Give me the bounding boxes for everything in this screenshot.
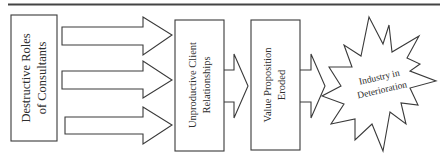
svg-text:of Consultants: of Consultants <box>35 42 49 115</box>
node-2-line-2: Relationships <box>201 56 212 113</box>
diagram-canvas: Destructive Roles of Consultants Unprodu… <box>0 0 446 165</box>
block-arrow-1 <box>62 17 172 55</box>
node-2-line-1: Unproductive Client <box>187 42 198 128</box>
svg-text:Relationships: Relationships <box>201 56 212 113</box>
node-industry-in-deterioration: Industry in Deterioration <box>322 17 436 151</box>
svg-text:Eroded: Eroded <box>276 69 287 100</box>
svg-text:Unproductive Client: Unproductive Client <box>187 42 198 128</box>
svg-text:Value Proposition: Value Proposition <box>262 47 273 123</box>
node-destructive-roles: Destructive Roles of Consultants <box>11 15 57 141</box>
arrows-n1-to-n2 <box>62 17 172 144</box>
node-unproductive-client-relationships: Unproductive Client Relationships <box>175 20 224 151</box>
node-3-line-1: Value Proposition <box>262 47 273 123</box>
node-1-line-1: Destructive Roles <box>19 33 33 122</box>
node-1-line-2: of Consultants <box>35 42 49 115</box>
block-arrow-3 <box>65 107 172 144</box>
svg-text:Destructive Roles: Destructive Roles <box>19 33 33 122</box>
node-3-line-2: Eroded <box>276 69 287 100</box>
starburst-shape <box>322 17 436 151</box>
block-arrow-2 <box>62 61 172 98</box>
node-value-proposition-eroded: Value Proposition Eroded <box>251 20 300 150</box>
